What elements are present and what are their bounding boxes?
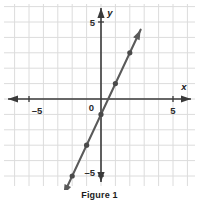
y-axis-name-label: y [106,7,113,18]
data-point [113,81,118,86]
data-point [127,50,132,55]
x-tick-label-five: 5 [170,105,176,116]
y-tick-label-five: 5 [90,17,96,28]
data-point [84,143,89,148]
x-axis-name-label: x [180,81,187,92]
plot-background [0,0,199,190]
origin-label: 0 [89,102,94,113]
data-point [70,173,75,178]
data-point [98,112,103,117]
coordinate-plane-graph: –5 5 0 5 –5 x y [0,0,199,190]
y-tick-label-negative-five: –5 [84,167,95,178]
figure-caption: Figure 1 [0,190,199,200]
x-tick-label-negative-five: –5 [32,105,43,116]
figure-container: –5 5 0 5 –5 x y Figure 1 [0,0,199,206]
